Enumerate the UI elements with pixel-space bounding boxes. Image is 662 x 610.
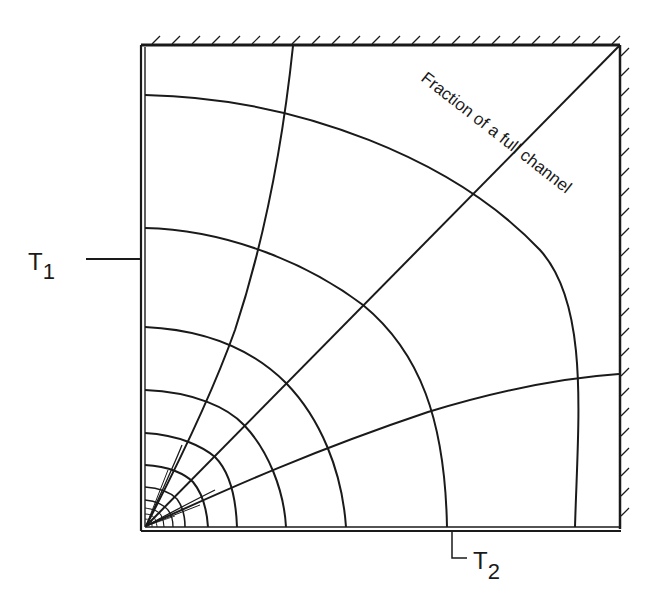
diagonal-fraction-channel xyxy=(146,46,619,526)
flux-plot-diagram: T1 T2 Fraction of a full channel xyxy=(0,0,662,610)
t1-label: T xyxy=(28,248,43,275)
fraction-channel-label: Fraction of a full channel xyxy=(418,68,576,197)
t2-subscript: 2 xyxy=(488,559,500,584)
t1-label-group: T1 xyxy=(28,248,141,284)
svg-text:T2: T2 xyxy=(473,547,500,584)
svg-text:T1: T1 xyxy=(28,248,55,284)
heat-flow-lines xyxy=(146,46,619,526)
t2-label-group: T2 xyxy=(452,531,500,584)
right-adiabatic-hatching xyxy=(621,48,629,516)
t1-subscript: 1 xyxy=(43,259,55,284)
top-adiabatic-hatching xyxy=(152,36,620,44)
t2-label: T xyxy=(473,547,488,574)
